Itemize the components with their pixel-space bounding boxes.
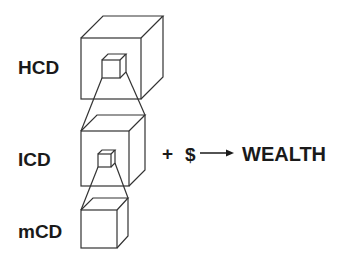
label-hcd: HCD (18, 57, 59, 78)
icd-inner-cube (98, 150, 115, 167)
arrow-right-icon (200, 150, 234, 157)
hcd-inner-cube (102, 54, 126, 78)
mcd-cube (81, 198, 128, 248)
plus-sign: + (162, 143, 173, 164)
label-icd: ICD (18, 149, 51, 170)
label-mcd: mCD (18, 221, 62, 242)
dollar-sign: $ (185, 144, 196, 165)
wealth-label: WEALTH (242, 143, 326, 165)
nested-cubes-diagram: HCD ICD mCD + $ WEALTH (0, 0, 342, 263)
